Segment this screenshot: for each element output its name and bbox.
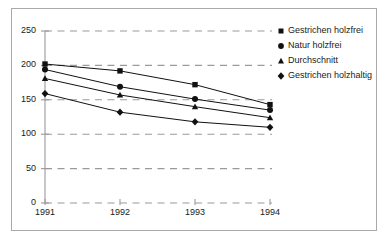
x-tick-label-1991: 1991 [25,207,65,217]
legend-item-natur-holzfrei: Natur holzfrei [276,39,384,52]
diamond-marker-icon [276,69,288,82]
y-tick-label-150: 150 [10,94,36,104]
y-tick-label-50: 50 [10,163,36,173]
x-tick-label-1994: 1994 [250,207,290,217]
y-tick-label-250: 250 [10,25,36,35]
chart-legend: Gestrichen holzfrei Natur holzfrei Durch… [276,24,384,84]
legend-item-durchschnitt: Durchschnitt [276,54,384,67]
triangle-marker-icon [276,54,288,67]
chart-figure: 250 200 150 100 50 0 1991 1992 1993 1994… [0,0,391,245]
legend-label-2: Durchschnitt [288,54,338,67]
y-tick-label-100: 100 [10,128,36,138]
y-tick-label-200: 200 [10,59,36,69]
y-tick-label-0: 0 [10,197,36,207]
legend-label-1: Natur holzfrei [288,39,342,52]
x-tick-label-1993: 1993 [175,207,215,217]
legend-label-3: Gestrichen holzhaltig [288,69,372,82]
square-marker-icon [276,24,288,37]
x-tick-label-1992: 1992 [100,207,140,217]
circle-marker-icon [276,39,288,52]
legend-item-gestrichen-holzfrei: Gestrichen holzfrei [276,24,384,37]
legend-item-gestrichen-holzhaltig: Gestrichen holzhaltig [276,69,384,82]
legend-label-0: Gestrichen holzfrei [288,24,363,37]
